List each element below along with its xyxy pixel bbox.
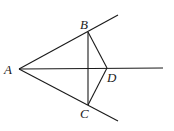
ray-ad <box>19 68 163 69</box>
geometry-diagram: A B C D <box>0 0 174 131</box>
label-b: B <box>80 17 88 32</box>
segment-bd <box>88 32 107 68</box>
label-a: A <box>3 62 12 77</box>
label-d: D <box>106 70 117 85</box>
segment-cd <box>88 68 107 105</box>
ray-ac <box>19 69 118 121</box>
label-c: C <box>80 106 89 121</box>
